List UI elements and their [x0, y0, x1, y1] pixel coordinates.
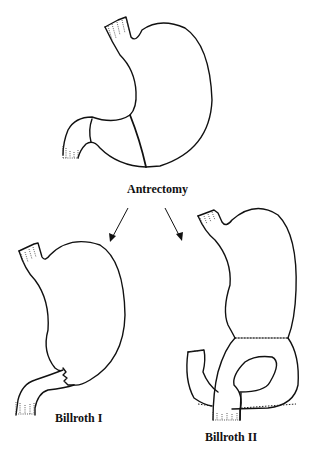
stomach-diagram	[0, 0, 313, 450]
arrowhead-right-icon	[176, 232, 183, 241]
arrows	[109, 208, 183, 242]
billroth-i-label: Billroth I	[55, 411, 102, 426]
antrectomy-label: Antrectomy	[127, 182, 188, 197]
arrowhead-left-icon	[109, 233, 116, 242]
arrow-to-billroth-i	[112, 208, 128, 238]
stomach-antrectomy	[63, 17, 212, 167]
billroth-ii-label: Billroth II	[205, 430, 257, 445]
arrow-to-billroth-ii	[165, 208, 180, 237]
stomach-billroth-i	[16, 242, 125, 415]
stomach-billroth-ii	[187, 209, 298, 420]
